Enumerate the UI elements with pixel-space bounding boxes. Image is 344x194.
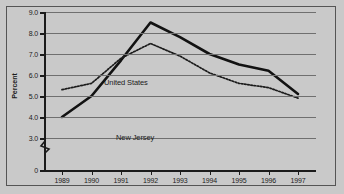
- series-label-new-jersey: New Jersey: [116, 133, 154, 142]
- x-axis-tick: [151, 172, 152, 175]
- gridline: [44, 138, 316, 139]
- series-label-united-states: United States: [104, 78, 148, 87]
- x-axis-tick-label: 1997: [291, 177, 306, 184]
- gridline: [44, 12, 316, 13]
- x-axis-tick-label: 1989: [55, 177, 70, 184]
- x-axis-tick: [62, 172, 63, 175]
- x-axis-tick-label: 1995: [232, 177, 247, 184]
- x-axis-tick-label: 1990: [84, 177, 99, 184]
- y-axis-tick: [40, 54, 44, 56]
- x-axis-tick: [180, 172, 181, 175]
- y-axis-title: Percent: [11, 73, 18, 99]
- gridline: [44, 54, 316, 55]
- y-axis-tick: [40, 75, 44, 77]
- x-axis-tick: [121, 172, 122, 175]
- x-axis-tick-label: 1996: [261, 177, 276, 184]
- y-axis-tick-label: 0: [34, 167, 38, 174]
- y-axis-tick-label: 7.0: [29, 51, 38, 58]
- x-axis-tick-label: 1992: [143, 177, 158, 184]
- x-axis-tick-label: 1993: [173, 177, 188, 184]
- gridline: [44, 33, 316, 34]
- x-axis-tick: [92, 172, 93, 175]
- gridline: [44, 75, 316, 76]
- y-axis-tick-label: 4.0: [29, 114, 38, 121]
- y-axis-tick: [40, 117, 44, 119]
- x-axis-tick: [298, 172, 299, 175]
- y-axis-tick-label: 5.0: [29, 93, 38, 100]
- chart-figure: United States New Jersey 9.08.07.06.05.0…: [0, 0, 344, 194]
- y-axis-tick-label: 9.0: [29, 9, 38, 16]
- gridline: [44, 117, 316, 118]
- line-new-jersey: [62, 23, 298, 118]
- y-axis-tick-label: 6.0: [29, 72, 38, 79]
- x-axis-tick-label: 1991: [114, 177, 129, 184]
- series-lines: [44, 12, 316, 172]
- y-axis-tick-label: 8.0: [29, 30, 38, 37]
- x-axis-tick: [239, 172, 240, 175]
- x-axis-tick: [210, 172, 211, 175]
- y-axis-tick-label: 3.0: [29, 135, 38, 142]
- y-axis-tick: [40, 96, 44, 98]
- x-axis-tick: [269, 172, 270, 175]
- y-axis-tick: [40, 33, 44, 35]
- axis-break-icon: [40, 138, 50, 156]
- plot-area: United States New Jersey: [44, 12, 316, 172]
- y-axis-tick: [40, 12, 44, 14]
- gridline: [44, 96, 316, 97]
- x-axis-tick-label: 1994: [202, 177, 217, 184]
- x-axis: 198919901991199219931994199519961997: [44, 170, 316, 172]
